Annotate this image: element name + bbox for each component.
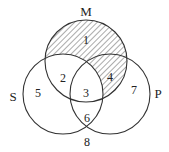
region-label-8: 8 bbox=[84, 135, 90, 149]
set-label-p: P bbox=[154, 86, 161, 101]
shaded-region bbox=[0, 0, 169, 152]
region-label-3: 3 bbox=[83, 86, 89, 100]
set-label-m: M bbox=[80, 4, 92, 19]
region-label-4: 4 bbox=[107, 70, 113, 84]
set-label-s: S bbox=[9, 89, 16, 104]
region-label-7: 7 bbox=[131, 83, 137, 97]
region-label-2: 2 bbox=[60, 71, 66, 85]
region-label-6: 6 bbox=[84, 111, 90, 125]
region-label-1: 1 bbox=[83, 33, 89, 47]
venn-diagram: MSP 12345678 bbox=[0, 0, 169, 152]
region-label-5: 5 bbox=[35, 86, 41, 100]
